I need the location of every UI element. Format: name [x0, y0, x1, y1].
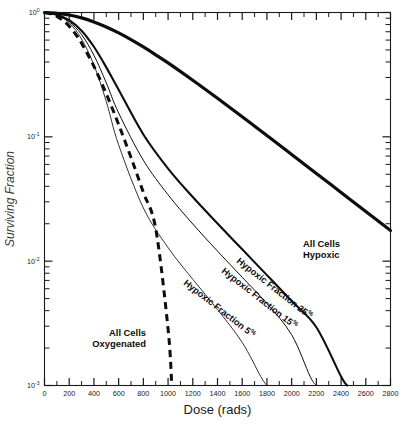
x-tick-label: 1600: [234, 389, 250, 398]
curve-annotations: All CellsHypoxicHypoxic Fraction 25%Hypo…: [92, 238, 340, 349]
y-axis-tick-labels: 10010-110-210-3: [27, 7, 40, 390]
axis-titles: Dose (rads) Surviving Fraction: [3, 151, 251, 417]
x-tick-label: 200: [63, 389, 75, 398]
x-tick-label: 1200: [185, 389, 201, 398]
x-tick-label: 2600: [358, 389, 374, 398]
x-tick-label: 400: [88, 389, 100, 398]
x-tick-label: 1000: [160, 389, 176, 398]
x-tick-label: 2000: [284, 389, 300, 398]
y-axis-title: Surviving Fraction: [3, 151, 17, 247]
survival-curve-chart: 0200400600800100012001400160018002000220…: [0, 0, 407, 428]
x-axis-ticks: [45, 13, 391, 386]
annotation-all-cells-oxygenated: All CellsOxygenated: [92, 327, 146, 349]
data-curves: [45, 13, 391, 386]
x-tick-label: 600: [113, 389, 125, 398]
y-tick-label: 10-3: [27, 380, 40, 390]
x-axis-tick-labels: 0200400600800100012001400160018002000220…: [43, 389, 399, 398]
x-tick-label: 2200: [308, 389, 324, 398]
curve-hypoxic-fraction-5: [45, 13, 267, 386]
curve-hypoxic-fraction-25: [45, 13, 348, 386]
curve-all-cells-hypoxic: [45, 13, 391, 231]
y-tick-label: 10-1: [27, 131, 40, 141]
x-tick-label: 1800: [259, 389, 275, 398]
y-axis-ticks: [45, 13, 391, 386]
annotation-all-cells-hypoxic: All CellsHypoxic: [303, 238, 340, 260]
plot-frame: [45, 13, 391, 386]
x-axis-title: Dose (rads): [184, 402, 252, 417]
x-tick-label: 2800: [383, 389, 399, 398]
x-tick-label: 1400: [210, 389, 226, 398]
y-tick-label: 10-2: [27, 256, 40, 266]
x-tick-label: 0: [43, 389, 47, 398]
figure-container: 0200400600800100012001400160018002000220…: [0, 0, 407, 428]
y-tick-label: 100: [29, 7, 40, 17]
x-tick-label: 800: [137, 389, 149, 398]
curve-hypoxic-fraction-15: [45, 13, 317, 386]
x-tick-label: 2400: [333, 389, 349, 398]
